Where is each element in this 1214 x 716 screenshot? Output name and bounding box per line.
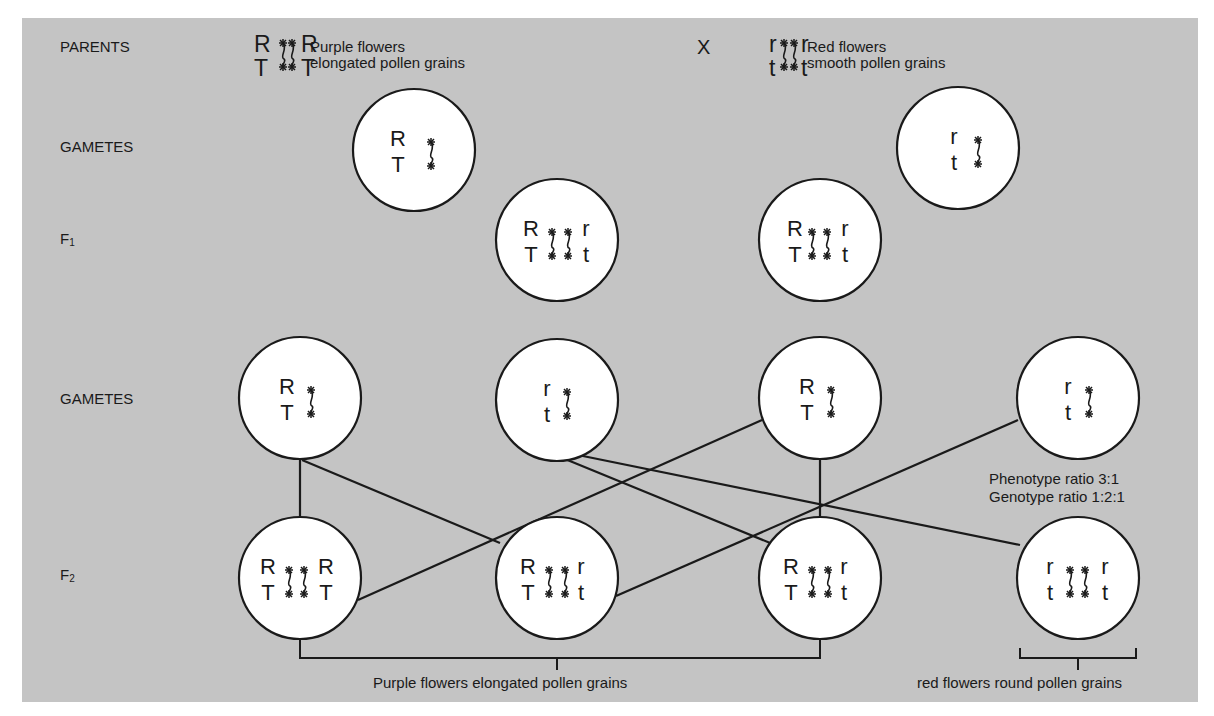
svg-text:R: R: [318, 554, 334, 579]
svg-text:t: t: [842, 242, 848, 267]
gamete-f1-2: r t: [496, 339, 618, 461]
svg-text:t: t: [1047, 580, 1053, 605]
cross-diagram: R T R T r t r t R T r t R T r t R: [0, 0, 1214, 716]
svg-text:r: r: [1101, 554, 1108, 579]
f1-individual-2: R T r t: [759, 179, 881, 301]
svg-text:T: T: [784, 580, 797, 605]
svg-text:R: R: [783, 554, 799, 579]
svg-text:T: T: [391, 152, 404, 177]
svg-text:T: T: [800, 400, 813, 425]
svg-text:T: T: [301, 55, 315, 81]
parent-left-genotype: R T R T: [254, 31, 318, 81]
svg-text:R: R: [254, 31, 271, 57]
svg-text:r: r: [950, 124, 957, 149]
svg-text:t: t: [769, 55, 776, 81]
svg-text:t: t: [544, 402, 550, 427]
svg-text:r: r: [769, 31, 777, 57]
f2-individual-rrtt: r t r t: [1017, 517, 1139, 639]
svg-text:T: T: [524, 242, 537, 267]
svg-text:R: R: [301, 31, 318, 57]
svg-text:T: T: [788, 242, 801, 267]
svg-text:R: R: [520, 554, 536, 579]
gamete-parent-left: R T: [353, 89, 475, 211]
svg-text:T: T: [254, 55, 268, 81]
svg-text:T: T: [319, 580, 332, 605]
gamete-parent-right: r t: [897, 87, 1019, 209]
svg-text:t: t: [578, 580, 584, 605]
svg-text:T: T: [280, 400, 293, 425]
gamete-f1-4: r t: [1017, 337, 1139, 459]
svg-text:r: r: [582, 216, 589, 241]
f2-individual-RRTT: R T R T: [239, 517, 361, 639]
svg-text:R: R: [279, 374, 295, 399]
svg-text:R: R: [260, 554, 276, 579]
svg-text:t: t: [951, 150, 957, 175]
parent-right-genotype: r t r t: [769, 31, 809, 81]
svg-text:T: T: [521, 580, 534, 605]
f1-individual-1: R T r t: [496, 179, 618, 301]
svg-text:t: t: [1102, 580, 1108, 605]
svg-text:R: R: [390, 126, 406, 151]
svg-text:r: r: [841, 216, 848, 241]
bracket-red: [1020, 648, 1136, 658]
svg-text:r: r: [577, 554, 584, 579]
outcome-brackets: [300, 640, 1136, 670]
svg-text:t: t: [801, 55, 808, 81]
svg-text:t: t: [1065, 400, 1071, 425]
gamete-f1-1: R T: [239, 337, 361, 459]
svg-text:t: t: [841, 580, 847, 605]
svg-text:r: r: [543, 376, 550, 401]
svg-text:R: R: [787, 216, 803, 241]
svg-text:r: r: [801, 31, 809, 57]
gamete-f1-3: R T: [759, 337, 881, 459]
bracket-purple: [300, 640, 820, 658]
svg-text:T: T: [261, 580, 274, 605]
f2-individual-RrTt-1: R T r t: [496, 517, 618, 639]
svg-text:r: r: [840, 554, 847, 579]
f2-individual-RrTt-2: R T r t: [759, 517, 881, 639]
svg-text:R: R: [523, 216, 539, 241]
svg-text:t: t: [583, 242, 589, 267]
svg-text:r: r: [1064, 374, 1071, 399]
svg-text:r: r: [1046, 554, 1053, 579]
svg-text:R: R: [799, 374, 815, 399]
connector-lines: [300, 420, 1020, 600]
